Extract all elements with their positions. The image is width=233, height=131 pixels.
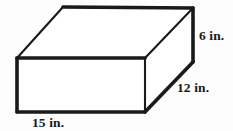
height-dimension-label: 6 in.	[199, 29, 224, 43]
depth-dimension-label: 12 in.	[177, 81, 209, 95]
prism-figure: 6 in. 12 in. 15 in.	[0, 0, 233, 131]
rectangular-prism-drawing	[0, 0, 233, 131]
width-dimension-label: 15 in.	[32, 116, 64, 130]
prism-front-face	[17, 58, 145, 112]
prism-edge-top-back	[63, 7, 193, 8]
